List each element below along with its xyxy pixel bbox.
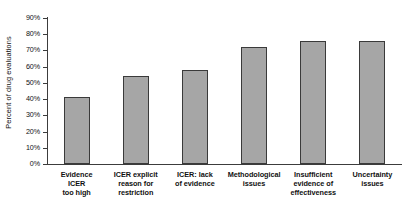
x-axis-label: Insufficientevidence ofeffectiveness	[281, 170, 346, 198]
x-axis-label: ICER explicitreason forrestriction	[103, 170, 168, 198]
x-axis-label-line: Uncertainty	[340, 170, 405, 179]
y-axis-tick-label: 90%	[0, 14, 40, 22]
bar	[123, 76, 149, 164]
plot-area: 0%10%20%30%40%50%60%70%80%90% EvidenceIC…	[0, 0, 414, 209]
y-axis-line	[47, 17, 48, 165]
y-axis-tick-label: 50%	[0, 79, 40, 87]
y-axis-tick	[43, 67, 47, 68]
y-axis-tick	[43, 34, 47, 35]
x-axis-label: Uncertaintyissues	[340, 170, 405, 188]
x-axis-label-line: effectiveness	[281, 188, 346, 197]
x-axis-label-line: Methodological	[222, 170, 287, 179]
x-axis-label-line: issues	[222, 179, 287, 188]
bar	[64, 97, 90, 164]
x-axis-label-line: Insufficient	[281, 170, 346, 179]
bar	[359, 41, 385, 164]
y-axis-tick	[43, 115, 47, 116]
x-axis-label-line: too high	[44, 188, 109, 197]
x-axis-label-line: of evidence	[162, 179, 227, 188]
x-axis-label: ICER: lackof evidence	[162, 170, 227, 188]
y-axis-tick	[43, 18, 47, 19]
bar-chart-figure: Percent of drug evaluations 0%10%20%30%4…	[0, 0, 414, 209]
y-axis-tick	[43, 132, 47, 133]
y-axis-tick-label: 10%	[0, 144, 40, 152]
y-axis-tick-label: 0%	[0, 160, 40, 168]
y-axis-tick	[43, 148, 47, 149]
bar	[300, 41, 326, 164]
y-axis-tick-label: 40%	[0, 95, 40, 103]
y-axis-tick-label: 30%	[0, 111, 40, 119]
x-axis-label: EvidenceICERtoo high	[44, 170, 109, 198]
y-axis-tick	[43, 99, 47, 100]
x-axis-label-line: reason for	[103, 179, 168, 188]
y-axis-tick-label: 70%	[0, 46, 40, 54]
y-axis-tick	[43, 50, 47, 51]
y-axis-tick-label: 20%	[0, 128, 40, 136]
y-axis-tick-label: 60%	[0, 63, 40, 71]
x-axis-label-line: ICER explicit	[103, 170, 168, 179]
x-axis-label-line: issues	[340, 179, 405, 188]
x-axis-label-line: ICER: lack	[162, 170, 227, 179]
y-axis-tick-label: 80%	[0, 30, 40, 38]
y-axis-tick	[43, 164, 47, 165]
x-axis-label-line: evidence of	[281, 179, 346, 188]
x-axis-label-line: ICER	[44, 179, 109, 188]
y-axis-tick	[43, 83, 47, 84]
x-axis-label-line: restriction	[103, 188, 168, 197]
x-axis-label: Methodologicalissues	[222, 170, 287, 188]
x-axis-label-line: Evidence	[44, 170, 109, 179]
bar	[241, 47, 267, 164]
bar	[182, 70, 208, 164]
x-axis-line	[47, 164, 402, 165]
